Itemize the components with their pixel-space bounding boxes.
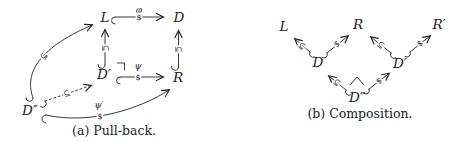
label-psi-prime: ψ′ [94,100,103,110]
node-D-prime: D′ [96,66,111,82]
wedge-icon [351,77,364,85]
caption-composition: (b) Composition. [307,106,412,121]
figure-canvas: L D D′ R D″ φ $ ⊆ ⊆ ψ $ ⊆ ⊆ ψ′ [0,0,466,142]
label-subset: ⊆ [62,88,71,99]
label-subset: ⊆ [174,46,183,53]
node-D: D [312,54,324,70]
hook-icon [117,77,120,84]
panel-pullback: L D D′ R D″ φ $ ⊆ ⊆ ψ $ ⊆ ⊆ ψ′ [21,5,185,139]
node-D: D [173,9,185,25]
label-subset: ⊆ [376,39,387,50]
node-R: R [352,16,363,32]
label-subset: ⊆ [101,45,110,52]
hook-icon [42,115,46,123]
node-D-prime: D′ [392,55,407,71]
hook-icon [26,98,33,102]
pullback-corner-icon [118,63,125,70]
node-D-dprime: D″ [348,89,365,105]
caption-pullback: (a) Pull-back. [72,123,156,138]
label-dollar: $ [97,112,102,121]
hook-icon [41,101,47,107]
label-psi: ψ [134,61,142,71]
node-L: L [100,9,110,25]
label-dollar: $ [135,73,140,82]
label-dollar: $ [136,13,141,22]
node-L: L [279,18,289,34]
label-dollar: $ [374,76,384,86]
panel-composition: L R R′ D D′ D″ ⊆ $ ⊆ $ ⊆ $ (b) Compositi… [279,16,446,121]
node-D-dprime: D″ [21,102,38,118]
commutative-diagrams-figure: L D D′ R D″ φ $ ⊆ ⊆ ψ $ ⊆ ⊆ ψ′ [0,0,466,142]
node-R-prime: R′ [431,16,445,32]
hook-icon [112,17,116,24]
label-subset: ⊆ [332,77,343,88]
node-R: R [172,69,183,85]
arrow-Ddprime-to-L [30,25,92,98]
